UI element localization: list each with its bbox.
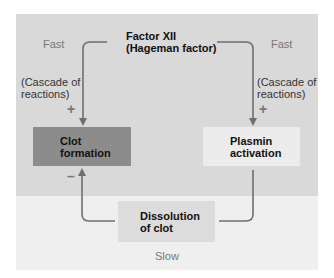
left-speed-label: Fast [43, 38, 64, 50]
factor-xii-node: Factor XII (Hageman factor) [126, 30, 216, 54]
right-plus-sign: + [259, 103, 267, 115]
left-cascade-line2: reactions) [21, 88, 80, 100]
dissolution-line1: Dissolution [118, 210, 200, 222]
left-plus-sign: + [67, 103, 75, 115]
arrow-factor-to-clot [83, 42, 107, 122]
plasmin-activation-box: Plasmin activation [203, 127, 300, 166]
bottom-speed-label: Slow [155, 250, 179, 262]
left-cascade-note: (Cascade of reactions) [21, 76, 80, 100]
arrow-plasmin-to-dissolution [219, 170, 253, 221]
clot-line2: formation [33, 147, 111, 159]
dissolution-line2: of clot [118, 222, 200, 234]
right-cascade-note: (Cascade of reactions) [257, 76, 316, 100]
right-cascade-line2: reactions) [257, 88, 316, 100]
factor-xii-line2: (Hageman factor) [126, 42, 216, 54]
plasmin-line1: Plasmin [203, 135, 281, 147]
inhibit-minus-sign: – [67, 170, 75, 182]
factor-xii-line1: Factor XII [126, 30, 216, 42]
clot-formation-box: Clot formation [33, 127, 131, 166]
right-cascade-line1: (Cascade of [257, 76, 316, 88]
dissolution-box: Dissolution of clot [118, 201, 215, 242]
clot-line1: Clot [33, 135, 111, 147]
arrow-dissolution-to-clot [82, 172, 115, 221]
right-speed-label: Fast [271, 38, 292, 50]
arrow-factor-to-plasmin [217, 42, 253, 122]
plasmin-line2: activation [203, 147, 281, 159]
left-cascade-line1: (Cascade of [21, 76, 80, 88]
